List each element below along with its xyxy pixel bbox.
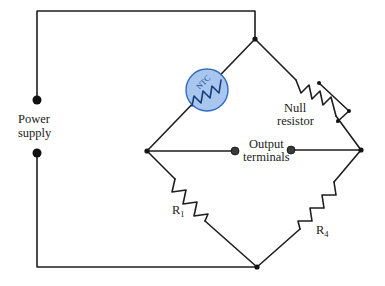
wheatstone-bridge-diagram: NTC Power supply Null resistor Output te… <box>0 0 385 286</box>
power-supply-label-line1: Power <box>18 112 51 126</box>
bridge-upper-right-arm <box>255 39 361 150</box>
output-terminal-left <box>231 147 239 155</box>
node-bottom <box>254 264 259 269</box>
r4-zigzag <box>298 182 336 229</box>
bridge-lower-right-arm <box>257 150 361 267</box>
r4-label: R4 <box>316 223 329 239</box>
bridge-lower-left-arm <box>147 151 257 267</box>
null-resistor-label-line1: Null <box>284 101 307 115</box>
r1-label: R1 <box>172 203 185 219</box>
null-resistor-wiper <box>319 83 349 122</box>
null-resistor-label-line2: resistor <box>277 114 315 128</box>
power-supply-wiring <box>37 11 257 267</box>
power-terminal-positive <box>33 96 42 105</box>
power-supply-label-line2: supply <box>18 126 52 140</box>
node-top <box>252 36 257 41</box>
node-left <box>144 148 149 153</box>
node-right <box>358 147 363 152</box>
output-terminals-label-line2: terminals <box>243 150 290 164</box>
output-terminals-label-line1: Output <box>249 137 284 151</box>
power-terminal-negative <box>33 149 42 158</box>
ntc-thermistor-icon: NTC <box>186 69 228 111</box>
